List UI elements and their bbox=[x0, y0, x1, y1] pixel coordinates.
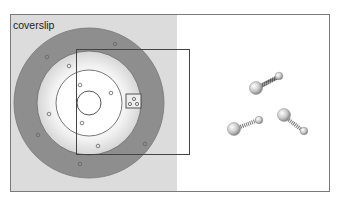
dumbbell-3 bbox=[278, 109, 308, 135]
dumbbell-1 bbox=[250, 72, 283, 94]
diagram-graphics bbox=[0, 0, 339, 200]
dumbbell-2 bbox=[228, 116, 263, 135]
substrate-disk bbox=[14, 28, 164, 178]
detail-box bbox=[126, 94, 141, 108]
